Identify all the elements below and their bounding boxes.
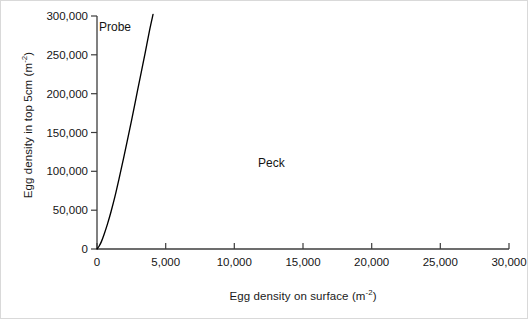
plot-area	[1, 1, 528, 319]
series-line-probe	[97, 14, 153, 249]
y-axis-ticks	[91, 16, 97, 249]
axis-lines	[97, 16, 509, 249]
x-axis-ticks	[97, 243, 509, 249]
chart-figure: 300,000 250,000 200,000 150,000 100,000 …	[0, 0, 528, 319]
